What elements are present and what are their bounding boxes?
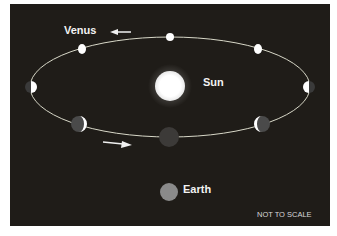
venus-half-right-icon xyxy=(303,81,315,93)
arrow-left-icon xyxy=(110,29,131,35)
venus-gibbous-right-icon xyxy=(254,44,262,54)
venus-half-left-icon xyxy=(25,81,37,93)
venus-phases-diagram xyxy=(0,0,337,236)
sun-icon xyxy=(155,71,185,101)
venus-new-icon xyxy=(159,127,179,147)
arrow-right-icon xyxy=(103,141,132,148)
earth-label: Earth xyxy=(183,183,211,195)
venus-full-icon xyxy=(166,33,174,41)
earth-icon xyxy=(160,183,178,201)
sun-label: Sun xyxy=(203,76,224,88)
venus-crescent-right-icon xyxy=(254,116,270,132)
not-to-scale-note: NOT TO SCALE xyxy=(257,210,312,219)
venus-label: Venus xyxy=(64,24,96,36)
venus-gibbous-left-icon xyxy=(78,44,86,54)
venus-crescent-left-icon xyxy=(71,116,87,132)
